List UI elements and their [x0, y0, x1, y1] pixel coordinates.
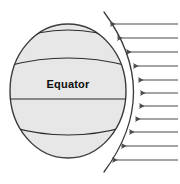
earth-sphere: [10, 24, 126, 158]
equator-diagram-svg: Equator: [0, 0, 180, 184]
equator-label: Equator: [47, 78, 90, 90]
diagram-canvas: Equator: [0, 0, 180, 184]
